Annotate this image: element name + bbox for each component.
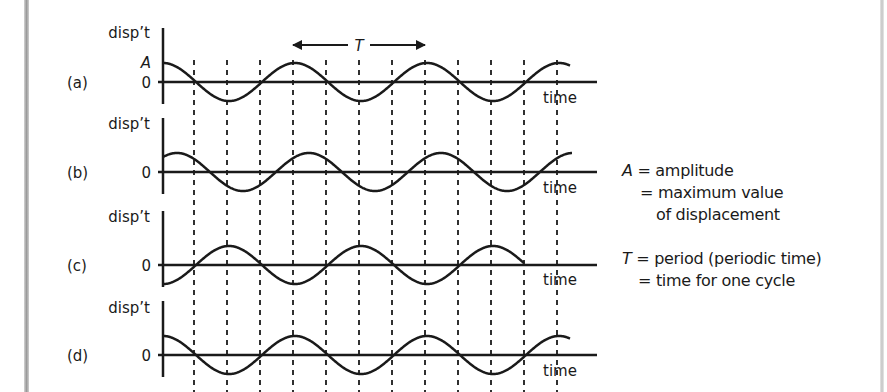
zero-label-c: 0	[141, 257, 151, 275]
x-axis-label-a: time	[543, 89, 577, 107]
y-axis-label-d: disp’t	[108, 299, 150, 317]
panel-label-c: (c)	[67, 257, 87, 275]
y-axis-label-a: disp’t	[108, 24, 150, 42]
legend-amplitude-line1: A = amplitude	[622, 160, 822, 182]
x-axis-label-d: time	[543, 362, 577, 380]
legend: A = amplitude = maximum value of displac…	[622, 160, 822, 292]
zero-label-a: 0	[141, 74, 151, 92]
legend-amplitude-line3: of displacement	[622, 204, 822, 226]
legend-period-line1: T = period (periodic time)	[622, 248, 822, 270]
zero-label-d: 0	[141, 347, 151, 365]
panel-label-b: (b)	[67, 164, 88, 182]
amplitude-symbol: A	[622, 161, 633, 180]
panel-c: (c) disp’t 0 time	[67, 208, 597, 289]
amplitude-label-a: A	[140, 54, 151, 72]
panel-b: (b) disp’t 0 time	[67, 115, 597, 197]
panel-a: (a) disp’t A 0 time	[67, 24, 597, 107]
period-marker: T	[293, 37, 425, 55]
legend-amplitude-line2: = maximum value	[622, 182, 822, 204]
quarter-period-gridlines	[194, 60, 557, 392]
legend-period-line2: = time for one cycle	[622, 270, 822, 292]
x-axis-label-c: time	[543, 271, 577, 289]
panel-label-a: (a)	[67, 74, 88, 92]
period-symbol: T	[354, 37, 365, 55]
y-axis-label-c: disp’t	[108, 208, 150, 226]
y-axis-label-b: disp’t	[108, 115, 150, 133]
panel-label-d: (d)	[67, 347, 88, 365]
zero-label-b: 0	[141, 164, 151, 182]
x-axis-label-b: time	[543, 179, 577, 197]
panel-d: (d) disp’t 0 time	[67, 299, 597, 380]
